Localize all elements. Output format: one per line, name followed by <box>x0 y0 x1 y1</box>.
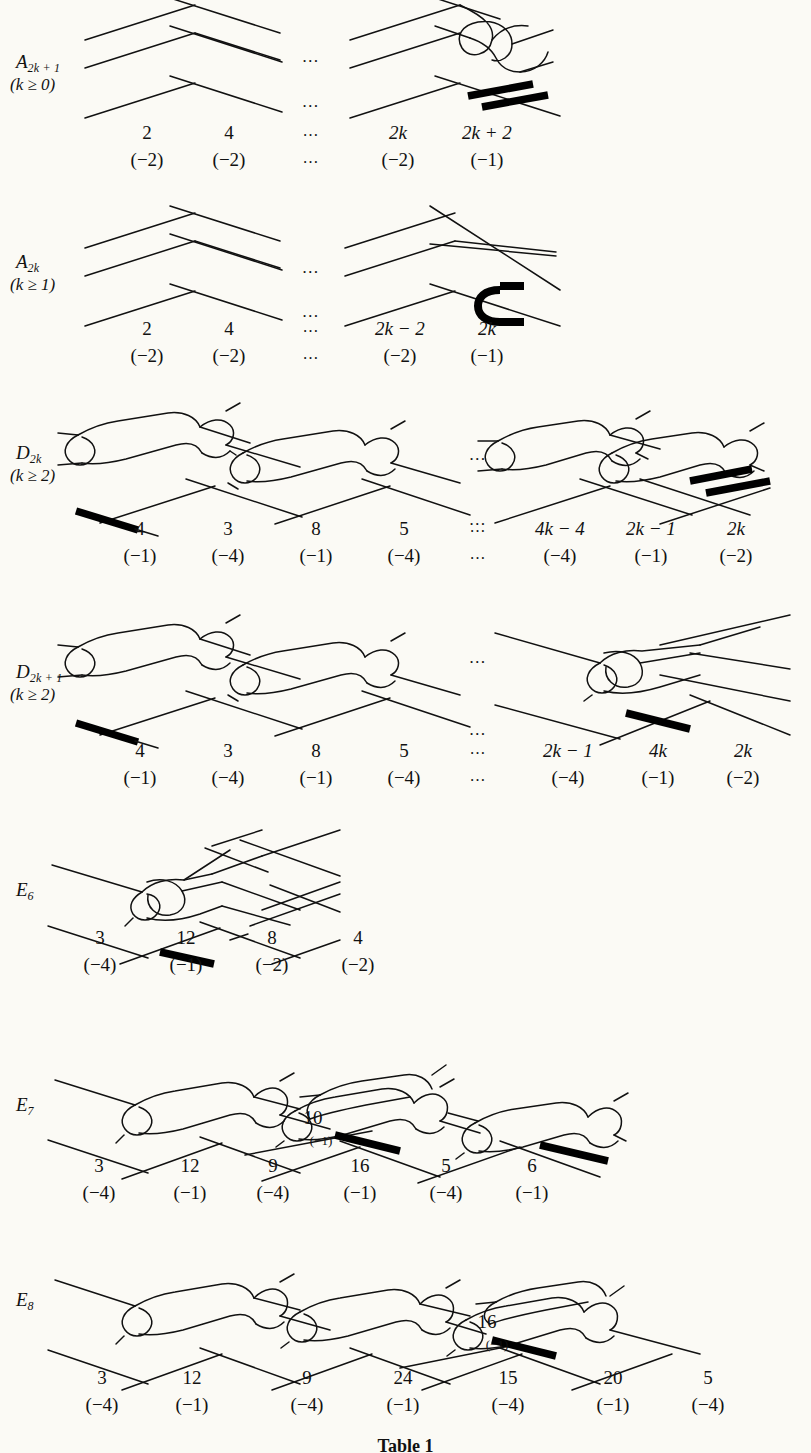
multiplicity-cell: (−2) <box>131 345 164 367</box>
weights-d-odd: 4 3 8 5 … 2k − 1 4k 2k <box>0 740 811 764</box>
multiplicity-cell: (−2) <box>727 767 760 789</box>
multiplicity-cell: (−1) <box>597 1394 630 1416</box>
weights-a-even: 2 4 … 2k − 2 2k <box>0 318 811 342</box>
weight-cell: 5 <box>441 1155 451 1177</box>
figure-caption: Table 1 <box>0 1436 811 1453</box>
multiplicity-cell: (−4) <box>83 1182 116 1204</box>
weight-cell: 12 <box>177 927 196 949</box>
multiplicity-cell: … <box>303 149 320 167</box>
weight-cell: 8 <box>311 518 321 540</box>
multiplicity-cell: (−4) <box>84 954 117 976</box>
weight-cell: … <box>470 518 487 536</box>
weight-cell: 4 <box>135 740 145 762</box>
weight-cell: 2 <box>142 122 152 144</box>
weight-cell: 8 <box>267 927 277 949</box>
diagram-a-odd <box>0 0 811 125</box>
weight-cell: 5 <box>703 1367 713 1389</box>
figure-sheet: A2k + 1 (k ≥ 0) … … 2 4 <box>0 0 811 1453</box>
multiplicity-cell: (−1) <box>642 767 675 789</box>
diagram-a-even <box>0 198 811 328</box>
weight-cell: 2k − 1 <box>626 518 676 540</box>
multiplicity-cell: (−4) <box>212 545 245 567</box>
multiplicities-a-even: (−2) (−2) … (−2) (−1) <box>0 345 811 369</box>
multiplicity-cell: (−1) <box>300 767 333 789</box>
multiplicity-cell: … <box>470 545 487 563</box>
weight-cell: 2k <box>389 122 407 144</box>
multiplicity-cell: (−4) <box>492 1394 525 1416</box>
multiplicity-cell: (−2) <box>213 149 246 171</box>
weight-cell: 2 <box>142 318 152 340</box>
weight-cell: 20 <box>604 1367 623 1389</box>
multiplicity-cell: (−1) <box>174 1182 207 1204</box>
weights-e6: 3 12 8 4 <box>0 927 811 951</box>
weight-cell: 2k − 1 <box>543 740 593 762</box>
multiplicity-cell: (−4) <box>257 1182 290 1204</box>
weight-cell: 16 <box>351 1155 370 1177</box>
weight-cell: 3 <box>95 927 105 949</box>
weight-cell: 2k + 2 <box>462 122 512 144</box>
multiplicity-cell: (−1) <box>124 545 157 567</box>
multiplicity-cell: (−1) <box>387 1394 420 1416</box>
weights-d-even: 4 3 8 5 … 4k − 4 2k − 1 2k <box>0 518 811 542</box>
weight-cell: 9 <box>302 1367 312 1389</box>
multiplicity-cell: (−1) <box>176 1394 209 1416</box>
weight-cell: 4 <box>135 518 145 540</box>
multiplicity-cell: (−4) <box>430 1182 463 1204</box>
weight-cell: 4 <box>224 122 234 144</box>
ellipsis-a-odd-lower: … <box>302 92 321 112</box>
multiplicities-e7: (−4) (−1) (−4) (−1) (−4) (−1) <box>0 1182 811 1206</box>
weight-cell: … <box>303 122 320 140</box>
weight-cell: 9 <box>268 1155 278 1177</box>
multiplicity-cell: (−4) <box>86 1394 119 1416</box>
ellipsis-d-even-upper: … <box>469 445 488 465</box>
weight-cell: 2k <box>727 518 745 540</box>
weight-cell: 4 <box>224 318 234 340</box>
weight-cell: 15 <box>499 1367 518 1389</box>
multiplicity-cell: (−4) <box>291 1394 324 1416</box>
weight-cell: 24 <box>394 1367 413 1389</box>
weight-cell: … <box>470 740 487 758</box>
weight-cell: 3 <box>223 740 233 762</box>
weight-cell: 5 <box>399 518 409 540</box>
extra-weight-e7: 10 <box>304 1107 323 1129</box>
multiplicity-cell: (−2) <box>384 345 417 367</box>
multiplicities-d-odd: (−1) (−4) (−1) (−4) … (−4) (−1) (−2) <box>0 767 811 791</box>
ellipsis-d-odd-lower: … <box>469 720 488 740</box>
multiplicity-cell: (−2) <box>131 149 164 171</box>
weight-cell: 12 <box>183 1367 202 1389</box>
weight-cell: 3 <box>223 518 233 540</box>
diagram-d-odd <box>0 605 811 740</box>
diagram-e8 <box>0 1240 811 1360</box>
multiplicity-cell: (−1) <box>170 954 203 976</box>
multiplicity-cell: (−1) <box>344 1182 377 1204</box>
diagram-e7 <box>0 1035 811 1155</box>
ellipsis-a-odd-upper: … <box>302 47 321 67</box>
weight-cell: 4 <box>353 927 363 949</box>
weight-cell: 5 <box>399 740 409 762</box>
weight-cell: 4k <box>649 740 667 762</box>
multiplicity-cell: (−1) <box>471 345 504 367</box>
weight-cell: 2k <box>478 318 496 340</box>
weights-e7: 3 12 9 16 5 6 <box>0 1155 811 1179</box>
weight-cell: 4k − 4 <box>535 518 585 540</box>
weight-cell: 2k <box>734 740 752 762</box>
multiplicity-cell: (−4) <box>544 545 577 567</box>
extra-multiplicity-e8: (−1) <box>486 1337 509 1353</box>
multiplicity-cell: (−1) <box>300 545 333 567</box>
diagram-d-even <box>0 393 811 528</box>
multiplicity-cell: … <box>470 767 487 785</box>
weights-a-odd: 2 4 … 2k 2k + 2 <box>0 122 811 146</box>
multiplicity-cell: (−4) <box>552 767 585 789</box>
multiplicity-cell: … <box>303 345 320 363</box>
ellipsis-a-even-upper: … <box>302 258 321 278</box>
multiplicity-cell: (−2) <box>256 954 289 976</box>
multiplicity-cell: (−1) <box>516 1182 549 1204</box>
multiplicity-cell: (−2) <box>213 345 246 367</box>
multiplicity-cell: (−1) <box>124 767 157 789</box>
weight-cell: 12 <box>181 1155 200 1177</box>
weights-e8: 3 12 9 24 15 20 5 <box>0 1367 811 1391</box>
weight-cell: 8 <box>311 740 321 762</box>
multiplicity-cell: (−4) <box>692 1394 725 1416</box>
weight-cell: 6 <box>527 1155 537 1177</box>
multiplicity-cell: (−2) <box>342 954 375 976</box>
